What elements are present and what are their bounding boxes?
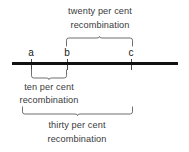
linkage-axis-line (12, 62, 178, 65)
locus-label-a: a (28, 48, 34, 58)
interval-bc-label-line2: recombination (70, 20, 129, 30)
interval-ab-label-line1: ten per cent (24, 82, 74, 92)
brace-b-to-c-path (66, 37, 133, 46)
brace-a-to-c (22, 107, 133, 115)
interval-ab-label-line2: recombination (19, 95, 78, 105)
brace-a-to-b-path (31, 70, 67, 79)
recombination-map-figure: twenty per cent recombination a b c ten … (0, 0, 189, 152)
brace-a-to-c-path (22, 107, 133, 115)
locus-label-b: b (64, 48, 70, 58)
interval-ac-label-line2: recombination (47, 134, 106, 144)
brace-b-to-c (66, 37, 133, 46)
brace-a-to-b (31, 70, 67, 79)
interval-ac-label-line1: thirty per cent (48, 120, 105, 130)
locus-label-c: c (129, 48, 134, 58)
interval-bc-label-line1: twenty per cent (68, 6, 132, 16)
